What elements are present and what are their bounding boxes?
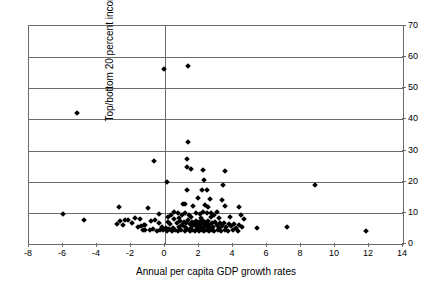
data-point [189,166,195,172]
x-axis-tick-mark [334,243,335,247]
x-axis-tick-label: 14 [390,249,414,258]
x-axis-tick-mark [130,243,131,247]
gridline-horizontal [29,151,403,152]
data-point [120,222,126,228]
data-point [207,196,213,202]
data-point [137,216,143,222]
data-point [185,140,191,146]
data-point [204,187,210,193]
x-axis-tick-mark [300,243,301,247]
y-axis-tick-mark [402,25,406,26]
data-point [222,168,228,174]
x-axis-tick-mark [96,243,97,247]
data-point [220,182,226,188]
gridline-horizontal [29,119,403,120]
data-point [145,206,151,212]
plot-frame [28,25,404,245]
data-point [222,203,228,209]
data-point [285,224,291,230]
data-point [116,204,122,210]
gridline-horizontal [29,88,403,89]
x-axis-tick-label: 8 [288,249,312,258]
y-axis-tick-label: 20 [408,177,418,186]
y-axis-tick-mark [402,56,406,57]
y-axis-tick-label: 70 [408,21,418,30]
data-point [81,217,87,223]
data-point [364,228,370,234]
x-axis-tick-mark [28,243,29,247]
y-axis-label: Top/bottom 20 percent income cohort [0,0,14,39]
x-axis-tick-label: 0 [152,249,176,258]
data-point [129,221,135,227]
gridline-horizontal [29,182,403,183]
x-axis-tick-label: -8 [16,249,40,258]
data-point [184,187,190,193]
data-point [161,66,167,72]
gridline-vertical-zero [165,26,166,244]
data-point [151,158,157,164]
x-axis-tick-label: 4 [220,249,244,258]
y-axis-tick-label: 10 [408,208,418,217]
data-point [254,226,260,232]
data-point [241,217,247,223]
data-point [74,110,80,116]
x-axis-tick-label: -6 [50,249,74,258]
x-axis-tick-label: 12 [356,249,380,258]
y-axis-tick-label: 40 [408,114,418,123]
x-axis-tick-mark [232,243,233,247]
data-point [60,211,66,217]
y-axis-tick-label: 30 [408,146,418,155]
y-axis-tick-label: 60 [408,52,418,61]
x-axis-tick-mark [62,243,63,247]
data-point [183,201,189,207]
x-axis-tick-label: 2 [186,249,210,258]
x-axis-tick-label: 10 [322,249,346,258]
data-point [190,203,196,209]
data-point [236,204,242,210]
data-point [217,215,223,221]
plot-area [29,26,403,244]
x-axis-tick-mark [164,243,165,247]
y-axis-tick-label: 0 [408,239,413,248]
data-point [313,182,319,188]
data-point [227,214,233,220]
y-axis-tick-mark [402,118,406,119]
y-axis-label-text: Top/bottom 20 percent income cohort [103,0,117,149]
x-axis-tick-mark [402,243,403,247]
x-axis-tick-mark [368,243,369,247]
y-axis-tick-mark [402,150,406,151]
data-point [184,156,190,162]
data-point [114,221,120,227]
y-axis-tick-mark [402,181,406,182]
scatter-chart-figure: 010203040506070-8-6-4-202468101214 Annua… [0,0,438,292]
x-axis-label: Annual per capita GDP growth rates [28,266,404,277]
data-point [185,63,191,69]
y-axis-tick-mark [402,87,406,88]
x-axis-tick-label: -4 [84,249,108,258]
x-axis-tick-label: -2 [118,249,142,258]
data-point [200,167,206,173]
data-point [219,197,225,203]
x-axis-tick-mark [198,243,199,247]
gridline-horizontal [29,57,403,58]
y-axis-tick-label: 50 [408,83,418,92]
y-axis-tick-mark [402,212,406,213]
x-axis-tick-label: 6 [254,249,278,258]
data-point [235,228,241,234]
data-point [195,195,201,201]
x-axis-tick-mark [266,243,267,247]
